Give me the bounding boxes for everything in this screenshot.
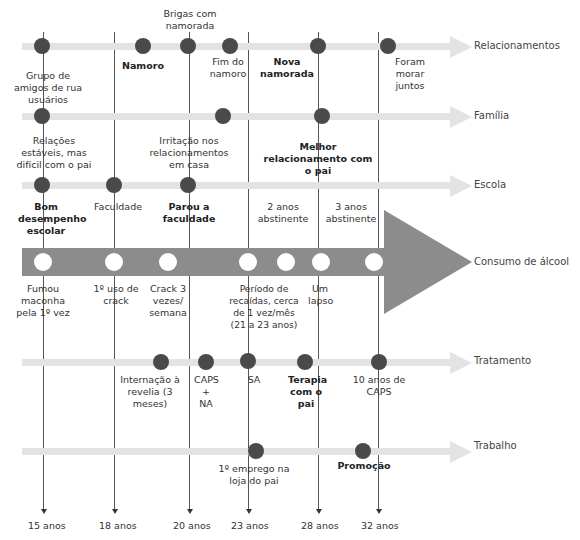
arrow-down-icon [41, 509, 47, 514]
row-label-relacionamentos: Relacionamentos [474, 40, 560, 51]
age-label: 32 anos [361, 520, 399, 531]
arrow-down-icon [376, 509, 382, 514]
event-dot [180, 38, 196, 54]
event-dot [106, 177, 122, 193]
event-dot [355, 443, 371, 459]
arrow-down-icon [316, 509, 322, 514]
track-escola [22, 182, 452, 189]
event-label: Faculdade [90, 201, 146, 213]
event-dot [135, 38, 151, 54]
arrow-down-icon [112, 509, 118, 514]
event-dot [180, 177, 196, 193]
event-label: Crack 3 vezes/ semana [144, 283, 192, 319]
event-dot [312, 253, 330, 271]
track-arrowhead [450, 106, 472, 128]
event-label: Nova namorada [258, 56, 316, 80]
event-dot [365, 253, 383, 271]
event-dot [314, 108, 330, 124]
age-label: 20 anos [173, 520, 211, 531]
event-label: Período de recaídas, cerca de 1 vez/mês … [226, 283, 302, 331]
track-arrowhead [450, 441, 472, 463]
alcohol-arrow-head [384, 210, 472, 314]
event-dot [105, 253, 123, 271]
age-label: 15 anos [28, 520, 66, 531]
track-trabalho [22, 448, 452, 455]
track-tratamento [22, 359, 452, 366]
alcohol-arrow-bar [22, 248, 386, 276]
event-dot [297, 354, 313, 370]
track-arrowhead [450, 36, 472, 58]
arrow-down-icon [187, 509, 193, 514]
event-label: 10 anos de CAPS [352, 374, 406, 398]
event-dot [380, 38, 396, 54]
event-label: Melhor relacionamento com o pai [262, 141, 374, 177]
track-arrowhead [450, 352, 472, 374]
age-label: 18 anos [99, 520, 137, 531]
event-dot [371, 354, 387, 370]
event-dot [34, 108, 50, 124]
event-label: Bom desempenho escolar [18, 201, 74, 237]
event-label: CAPS + NA [194, 374, 218, 410]
event-label: Foram morar juntos [380, 56, 440, 92]
event-label: Internação à revelia (3 meses) [110, 374, 190, 410]
event-dot [277, 253, 295, 271]
event-label: Relações estáveis, mas difícil com o pai [14, 135, 94, 171]
event-label: Promoção [336, 460, 392, 472]
row-label-familia: Família [474, 110, 509, 121]
event-label: Grupo de amigos de rua usuários [8, 70, 88, 106]
event-label: 3 anos abstinente [320, 201, 382, 225]
age-label: 23 anos [231, 520, 269, 531]
event-label: Brigas com namorada [163, 8, 217, 32]
event-label: 1º emprego na loja do pai [218, 463, 290, 487]
track-arrowhead [450, 175, 472, 197]
event-label: 1º uso de crack [92, 283, 140, 307]
row-label-escola: Escola [474, 179, 506, 190]
event-dot [34, 38, 50, 54]
age-label: 28 anos [301, 520, 339, 531]
event-label: Um lapso [308, 283, 332, 307]
event-label: SA [246, 374, 262, 386]
event-label: Parou a faculdade [160, 201, 218, 225]
event-dot [34, 253, 52, 271]
event-label: Fim do namoro [206, 56, 250, 80]
event-dot [239, 253, 257, 271]
event-dot [310, 38, 326, 54]
track-familia [22, 113, 452, 120]
event-dot [248, 443, 264, 459]
event-dot [222, 38, 238, 54]
arrow-down-icon [246, 509, 252, 514]
event-dot [159, 253, 177, 271]
event-dot [240, 353, 256, 369]
row-label-tratamento: Tratamento [474, 355, 531, 366]
event-label: Fumou maconha pela 1º vez [12, 283, 74, 319]
event-label: 2 anos abstinente [252, 201, 314, 225]
row-label-trabalho: Trabalho [474, 440, 517, 451]
event-label: Terapia com o pai [288, 374, 324, 410]
row-label-consumo: Consumo de álcool [474, 256, 569, 267]
event-dot [198, 354, 214, 370]
event-dot [215, 108, 231, 124]
event-label: Irritação nos relacionamentos em casa [148, 135, 230, 171]
event-label: Namoro [122, 60, 164, 72]
event-dot [34, 177, 50, 193]
event-dot [153, 354, 169, 370]
